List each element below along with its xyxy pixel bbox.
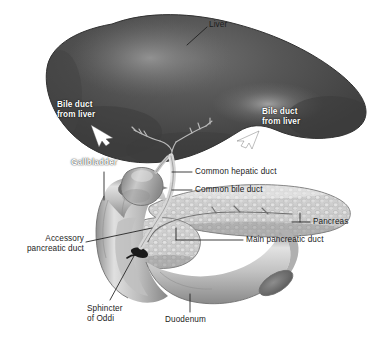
label-duodenum: Duodenum [165, 315, 206, 325]
label-pancreas: Pancreas [313, 217, 348, 227]
label-common-hepatic-duct: Common hepatic duct [195, 167, 277, 177]
label-sphincter-of-oddi-line2: of Oddi [87, 314, 114, 324]
label-gallbladder: Gallbladder [71, 158, 117, 168]
label-bile-duct-from-liver-left-line1: Bile duct [57, 100, 92, 110]
label-accessory-pancreatic-duct-line2: pancreatic duct [0, 244, 84, 254]
label-main-pancreatic-duct: Main pancreatic duct [246, 235, 324, 245]
arrow-bile-duct-right [237, 131, 259, 149]
label-bile-duct-from-liver-right-line1: Bile duct [262, 107, 297, 117]
label-sphincter-of-oddi-line1: Sphincter [87, 304, 123, 314]
anatomy-figure: Liver Bile duct from liver Bile duct fro… [0, 0, 379, 338]
liver-organ [38, 15, 374, 168]
label-bile-duct-from-liver-left-line2: from liver [57, 110, 95, 120]
label-bile-duct-from-liver-right-line2: from liver [262, 117, 300, 127]
anatomy-illustration [0, 0, 379, 338]
label-liver: Liver [209, 20, 227, 30]
label-accessory-pancreatic-duct-line1: Accessory [0, 234, 84, 244]
label-common-bile-duct: Common bile duct [195, 185, 263, 195]
